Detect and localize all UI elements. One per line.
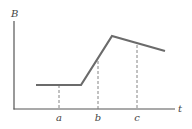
- b-curve: [36, 36, 165, 85]
- y-axis-label: B: [10, 8, 18, 19]
- tick-label-a: a: [56, 112, 62, 123]
- tick-label-c: c: [134, 112, 140, 123]
- tick-labels: abc: [56, 112, 140, 123]
- tick-label-b: b: [95, 112, 101, 123]
- dashed-markers: [59, 45, 137, 109]
- b-vs-t-chart: B t abc: [0, 0, 192, 129]
- x-axis-label: t: [178, 103, 183, 114]
